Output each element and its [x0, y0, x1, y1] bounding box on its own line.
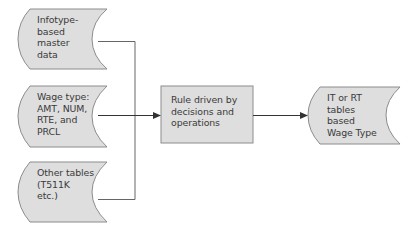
label-line: Rule driven by	[171, 94, 237, 106]
label-line: Wage type:	[37, 91, 89, 103]
label-line: PRCL	[37, 126, 89, 138]
label-line: based	[37, 26, 78, 38]
label-line: Other tables	[37, 167, 94, 179]
label-line: decisions and	[171, 106, 237, 118]
process-label: Rule driven by decisions and operations	[171, 94, 237, 129]
label-line: RTE, and	[37, 114, 89, 126]
label-line: etc.)	[37, 190, 94, 202]
label-line: (T511K	[37, 179, 94, 191]
label-line: master	[37, 37, 78, 49]
label-line: Wage Type	[327, 127, 377, 139]
label-line: based	[327, 115, 377, 127]
output-label: IT or RT tables based Wage Type	[327, 92, 377, 138]
label-line: operations	[171, 117, 237, 129]
label-line: data	[37, 49, 78, 61]
label-line: IT or RT	[327, 92, 377, 104]
label-line: AMT, NUM,	[37, 103, 89, 115]
input-label-wage-type: Wage type: AMT, NUM, RTE, and PRCL	[37, 91, 89, 137]
label-line: Infotype-	[37, 14, 78, 26]
label-line: tables	[327, 104, 377, 116]
input-label-infotype: Infotype- based master data	[37, 14, 78, 60]
input-label-other-tables: Other tables (T511K etc.)	[37, 167, 94, 202]
